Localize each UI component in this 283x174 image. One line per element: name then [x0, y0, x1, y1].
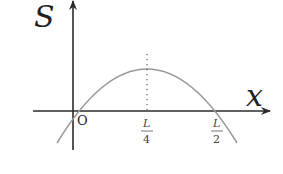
- tick-label-l-over-2: L 2: [211, 117, 223, 146]
- graph-canvas: S x O L 4 L 2: [0, 0, 283, 174]
- tick-l2-denominator: 2: [213, 133, 220, 146]
- y-axis-label: S: [34, 0, 55, 34]
- tick-label-l-over-4: L 4: [141, 117, 153, 146]
- tick-l4-numerator: L: [142, 117, 150, 130]
- tick-l4-denominator: 4: [143, 133, 150, 146]
- tick-l2-numerator: L: [212, 117, 220, 130]
- origin-label: O: [77, 113, 88, 128]
- x-axis-label: x: [246, 78, 263, 113]
